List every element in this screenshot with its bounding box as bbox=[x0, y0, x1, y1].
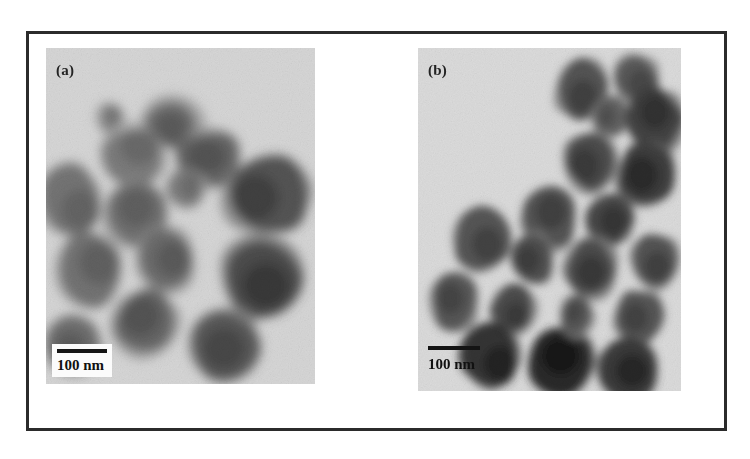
scale-bar-panel-b: 100 nm bbox=[428, 346, 480, 373]
scale-bar-line-a bbox=[57, 349, 107, 353]
panel-b-image bbox=[418, 48, 681, 391]
panel-label-a: (a) bbox=[56, 62, 74, 79]
panel-label-b: (b) bbox=[428, 62, 447, 79]
scale-bar-label-a: 100 nm bbox=[57, 358, 104, 374]
scale-bar-label-b: 100 nm bbox=[428, 357, 475, 373]
micrograph-panel-a bbox=[46, 48, 315, 384]
micrograph-panel-b bbox=[418, 48, 681, 391]
panel-a-image bbox=[46, 48, 315, 384]
scale-bar-panel-a: 100 nm bbox=[52, 344, 112, 377]
scale-bar-line-b bbox=[428, 346, 480, 350]
figure-root: (a) 100 nm (b) 100 nm bbox=[0, 0, 750, 459]
